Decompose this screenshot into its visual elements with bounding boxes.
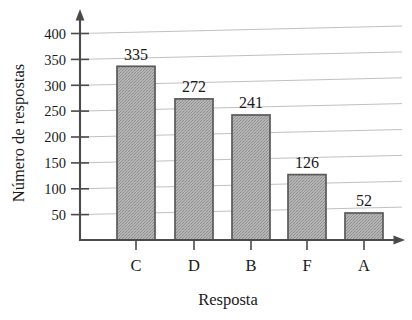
- bar-d: [175, 99, 213, 240]
- bar-chart-figure: 400 350 300 250 200 150 100 50 335 272 2…: [0, 0, 412, 320]
- category-label-c: C: [130, 256, 141, 275]
- y-tick-label-250: 250: [44, 103, 66, 119]
- value-label-f: 126: [295, 154, 319, 171]
- bar-f: [288, 175, 326, 240]
- y-tick-label-300: 300: [44, 78, 66, 94]
- y-tick-label-350: 350: [44, 52, 66, 68]
- bar-a: [345, 213, 383, 240]
- y-axis-arrowhead: [76, 9, 85, 21]
- category-label-d: D: [188, 256, 200, 275]
- y-tick-label-100: 100: [44, 181, 66, 197]
- value-label-b: 241: [239, 94, 263, 111]
- y-tick-label-200: 200: [44, 129, 66, 145]
- bar-c: [117, 66, 155, 240]
- x-axis-arrowhead: [394, 236, 406, 245]
- category-label-a: A: [358, 256, 370, 275]
- bars: [117, 66, 383, 240]
- y-tick-labels: 400 350 300 250 200 150 100 50: [44, 26, 66, 223]
- x-tick-marks: [136, 240, 364, 250]
- category-label-f: F: [302, 256, 311, 275]
- x-axis-title: Resposta: [198, 290, 258, 309]
- value-label-d: 272: [182, 78, 206, 95]
- x-category-labels: C D B F A: [130, 256, 370, 275]
- chart-canvas: 400 350 300 250 200 150 100 50 335 272 2…: [0, 0, 412, 320]
- y-tick-label-400: 400: [44, 26, 66, 42]
- y-tick-label-150: 150: [44, 155, 66, 171]
- category-label-b: B: [245, 256, 256, 275]
- bar-b: [232, 115, 270, 240]
- value-label-a: 52: [356, 192, 372, 209]
- y-axis-title: Número de respostas: [9, 64, 28, 202]
- y-tick-label-50: 50: [52, 207, 67, 223]
- value-label-c: 335: [124, 46, 148, 63]
- gridline-400: [80, 26, 402, 34]
